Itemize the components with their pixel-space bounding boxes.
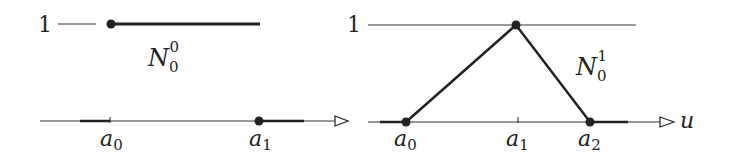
right-label-a2: a2: [578, 126, 601, 154]
right-n01-hat-graph: [406, 25, 590, 122]
left-panel: 1 N00 a0 a1: [38, 12, 348, 154]
left-axis-arrow-icon: [335, 116, 348, 126]
left-label-a1: a1: [249, 126, 272, 154]
right-label-a0: a0: [394, 126, 417, 154]
b-spline-basis-figure: 1 N00 a0 a1 1 N01: [0, 0, 729, 166]
left-a1-dot: [255, 117, 264, 126]
right-label-a1: a1: [506, 126, 529, 154]
left-closed-endpoint-dot: [107, 20, 116, 29]
left-function-label: N00: [147, 38, 179, 76]
right-peak-dot: [512, 21, 521, 30]
right-panel: 1 N01 u a0 a1 a2: [347, 12, 694, 154]
left-label-a0: a0: [100, 126, 123, 154]
right-axis-variable-u: u: [680, 108, 694, 133]
right-y-label-one: 1: [347, 12, 361, 37]
right-function-label: N01: [575, 47, 607, 85]
right-axis-arrow-icon: [660, 117, 674, 127]
left-y-label-one: 1: [38, 12, 52, 37]
